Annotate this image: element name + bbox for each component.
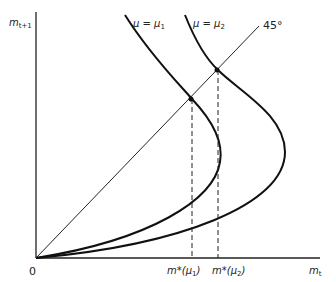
curve-mu1 (36, 15, 221, 258)
curve-mu2-label: μ = μ2 (193, 18, 225, 31)
diagram-canvas (0, 0, 336, 282)
line-45-degree (36, 26, 259, 258)
equilibrium-point-mu1 (189, 97, 194, 102)
line-45-label: 45° (263, 19, 283, 32)
mstar2-label: m*(μ2) (212, 265, 245, 278)
y-axis-label: mt+1 (9, 17, 32, 30)
x-axis-label: mt (309, 265, 322, 278)
mstar1-label: m*(μ1) (167, 265, 200, 278)
origin-label: 0 (29, 265, 36, 278)
equilibrium-point-mu2 (215, 68, 220, 73)
curve-mu1-label: μ = μ1 (133, 18, 165, 31)
